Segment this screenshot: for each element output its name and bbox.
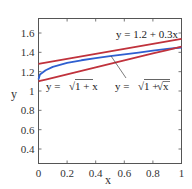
annotation-leader-line [111, 56, 126, 78]
series-group [39, 39, 182, 82]
annotation-inner: x [163, 80, 169, 92]
y-tick-label: 1.4 [21, 46, 35, 58]
y-tick-label: 0.6 [21, 124, 35, 136]
y-tick-label: 1.6 [21, 27, 35, 39]
annotation-prefix: y = [46, 80, 60, 92]
y-axis-title: y [11, 87, 17, 101]
y-tick-label: 0.4 [21, 143, 35, 155]
y-tick-label: 1 [29, 85, 35, 97]
x-axis-title: x [105, 173, 111, 187]
annotation-sqrt-1-plus-sqrt-x: y = √ 1 + √ x [115, 80, 170, 93]
x-tick-label: 0.6 [117, 167, 131, 179]
x-tick-label: 0.8 [146, 167, 160, 179]
y-tick-label: 1.2 [21, 66, 35, 78]
annotation-linear: y = 1.2 + 0.3x [116, 28, 178, 40]
x-tick-label: 1 [179, 167, 185, 179]
annotation-prefix: y = [115, 80, 129, 92]
y-tick-label: 0.8 [21, 104, 35, 116]
x-tick-label: 0.4 [89, 167, 103, 179]
chart: 00.20.40.60.81 0.40.60.811.21.41.6 y = 1… [0, 0, 192, 189]
annotation-body: 1 + x [75, 80, 98, 92]
annotation-sqrt-1-plus-x: y = √ 1 + x [46, 80, 98, 93]
x-tick-label: 0.2 [60, 167, 74, 179]
x-tick-label: 0 [36, 167, 42, 179]
